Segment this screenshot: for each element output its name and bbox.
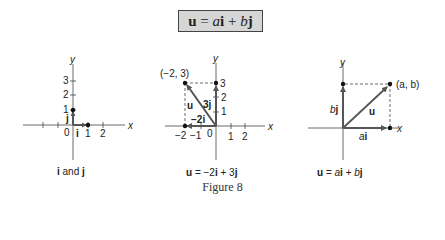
label-neg2i: −2i bbox=[191, 114, 205, 125]
x-tick-1: 1 bbox=[85, 128, 91, 139]
y-tick-2: 2 bbox=[221, 92, 227, 103]
label-j: j bbox=[65, 113, 69, 124]
x-tick-0: 0 bbox=[64, 127, 70, 138]
label-3j: 3j bbox=[203, 99, 212, 110]
caption-eq: = bbox=[323, 167, 334, 178]
caption-j: j bbox=[82, 166, 85, 177]
y-tick-1: 1 bbox=[221, 106, 227, 117]
panel-example-vector: y x (−2, 3) 3 2 1 −2 −1 0 1 2 u 3j −2i bbox=[160, 53, 274, 160]
label-u: u bbox=[187, 100, 193, 111]
label-bj: bj bbox=[330, 104, 339, 115]
caption-example-vector: u = −2i + 3j bbox=[186, 167, 237, 178]
x-tick-1: 1 bbox=[228, 131, 234, 142]
label-u: u bbox=[369, 106, 375, 117]
x-tick-2: 2 bbox=[100, 128, 106, 139]
x-axis-label: x bbox=[267, 121, 274, 132]
caption-part2: + 3 bbox=[218, 167, 235, 178]
point-label: (a, b) bbox=[396, 79, 419, 90]
x-tick-neg2: −2 bbox=[175, 130, 187, 141]
y-axis-label: y bbox=[339, 57, 346, 68]
y-tick-3: 3 bbox=[63, 75, 69, 86]
x-tick-2: 2 bbox=[242, 131, 248, 142]
x-axis-label: x bbox=[396, 123, 403, 134]
caption-j: j bbox=[235, 167, 238, 178]
caption-j: j bbox=[360, 167, 363, 178]
panel-general-vector: y x (a, b) u bj ai bbox=[308, 57, 419, 160]
y-tick-2: 2 bbox=[63, 89, 69, 100]
y-axis-label: y bbox=[69, 54, 76, 65]
caption-general-vector: u = ai + bj bbox=[317, 167, 363, 178]
y-tick-3: 3 bbox=[220, 78, 226, 89]
x-tick-0: 0 bbox=[207, 128, 213, 139]
caption-unit-vectors: i and j bbox=[57, 166, 85, 177]
caption-part1: = −2 bbox=[192, 167, 215, 178]
point-label: (−2, 3) bbox=[160, 68, 189, 79]
x-tick-neg1: −1 bbox=[190, 130, 202, 141]
caption-plus: + bbox=[343, 167, 354, 178]
label-i: i bbox=[76, 128, 79, 139]
figure-caption: Figure 8 bbox=[0, 180, 445, 195]
label-ai: ai bbox=[359, 131, 368, 142]
vector-u-arrow bbox=[343, 87, 387, 128]
caption-and: and bbox=[60, 166, 82, 177]
y-axis-label: y bbox=[212, 53, 219, 64]
x-axis-label: x bbox=[127, 120, 134, 131]
panel-unit-vectors: y x 1 2 3 0 1 2 i j bbox=[23, 54, 134, 160]
